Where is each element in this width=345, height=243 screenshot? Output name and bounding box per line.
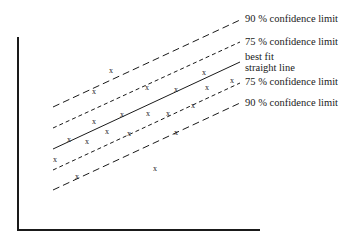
x-marker-point: x (67, 135, 71, 144)
x-marker-point: x (146, 109, 150, 118)
x-marker-point: x (120, 110, 124, 119)
line-lower-75 (53, 83, 240, 170)
label-lower-90: 90 % confidence limit (245, 97, 338, 108)
label-lower-75: 75 % confidence limit (245, 76, 338, 87)
x-marker-point: x (174, 85, 178, 94)
x-marker-point: x (92, 117, 96, 126)
x-marker-point: x (127, 129, 131, 138)
label-best-fit-1: best fit (245, 51, 274, 62)
x-marker-point: x (85, 137, 89, 146)
x-marker-point: x (92, 87, 96, 96)
x-marker-point: x (202, 68, 206, 77)
x-marker-point: x (205, 83, 209, 92)
confidence-limit-diagram: xxxxxxxxxxxxxxxxxxxx 90 % confidence lim… (0, 0, 345, 243)
x-marker-point: x (105, 127, 109, 136)
x-marker-point: x (153, 164, 157, 173)
x-marker-point: x (109, 66, 113, 75)
x-marker-point: x (145, 83, 149, 92)
regression-lines (53, 20, 240, 190)
data-points: xxxxxxxxxxxxxxxxxxxx (53, 66, 234, 181)
line-best-fit (53, 62, 240, 149)
x-marker-point: x (191, 101, 195, 110)
label-best-fit-2: straight line (245, 62, 295, 73)
x-marker-point: x (174, 128, 178, 137)
x-marker-point: x (166, 109, 170, 118)
label-upper-75: 75 % confidence limit (245, 36, 338, 47)
label-upper-90: 90 % confidence limit (245, 13, 338, 24)
line-upper-90 (53, 20, 240, 107)
x-marker-point: x (230, 76, 234, 85)
x-marker-point: x (53, 155, 57, 164)
x-marker-point: x (75, 172, 79, 181)
